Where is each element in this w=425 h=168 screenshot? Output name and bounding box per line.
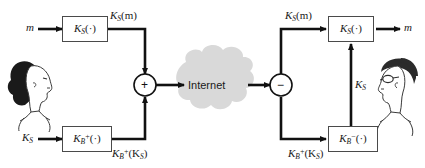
label-output-message: m xyxy=(404,22,412,33)
combiner-plus-symbol: + xyxy=(141,78,148,92)
alice-avatar xyxy=(8,61,52,132)
label-receiver-encrypted-key: KB+(KS) xyxy=(288,148,323,160)
arrow-separator-to-session-decrypt xyxy=(281,29,326,74)
label-sender-encrypted-key: KB+(KS) xyxy=(112,148,147,160)
box-sender-session-encrypt[interactable]: KS(·) xyxy=(62,16,108,42)
arrow-separator-to-privkey-decrypt xyxy=(281,97,326,139)
internet-cloud xyxy=(176,45,254,109)
label-recovered-session-key: KS xyxy=(355,79,366,91)
arrow-ciphertext-to-combiner xyxy=(108,29,145,74)
label-input-message: m xyxy=(26,22,34,33)
box-receiver-privkey-decrypt-label: KB−(·) xyxy=(339,133,366,145)
box-sender-pubkey-encrypt[interactable]: KB+(·) xyxy=(62,126,112,152)
box-receiver-session-decrypt[interactable]: KS(·) xyxy=(328,16,374,42)
internet-label: Internet xyxy=(188,79,225,91)
separator-minus-symbol: − xyxy=(277,78,284,92)
box-sender-pubkey-encrypt-label: KB+(·) xyxy=(73,133,100,145)
label-receiver-ciphertext: KS(m) xyxy=(285,10,312,22)
label-sender-ciphertext: KS(m) xyxy=(110,10,137,22)
crypto-session-key-diagram: + − Internet KS(·) KB+(·) KS(·) KB−(·) m… xyxy=(0,0,425,168)
bob-avatar xyxy=(377,58,418,136)
arrow-encrypted-key-to-combiner xyxy=(112,97,145,139)
box-sender-session-encrypt-label: KS(·) xyxy=(74,23,96,35)
box-receiver-session-decrypt-label: KS(·) xyxy=(340,23,362,35)
flow-lines-sender xyxy=(38,29,184,139)
label-input-session-key: KS xyxy=(22,132,33,144)
box-receiver-privkey-decrypt[interactable]: KB−(·) xyxy=(328,126,378,152)
